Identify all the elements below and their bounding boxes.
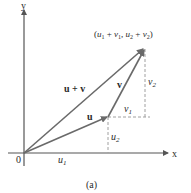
u1-label: u1 (58, 154, 67, 167)
figure-caption: (a) (86, 179, 97, 191)
v2-label: v2 (148, 76, 156, 89)
v1-label: v1 (124, 103, 132, 116)
vector-u (24, 117, 107, 153)
x-axis-label: x (172, 148, 177, 159)
u2-label: u2 (111, 131, 120, 144)
vector-u-plus-v (24, 49, 143, 153)
v-label: v (117, 79, 122, 90)
u-plus-v-label: u + v (64, 83, 85, 94)
endpoint-coordinate-label: (u1 + v1, u2 + v2) (94, 29, 153, 40)
origin-label: 0 (16, 154, 21, 165)
vector-addition-diagram: y x 0 u v u + v u1 u2 v1 v2 (u1 + v1, u2… (0, 0, 191, 193)
y-axis-label: y (21, 0, 26, 11)
u-label: u (87, 111, 93, 122)
